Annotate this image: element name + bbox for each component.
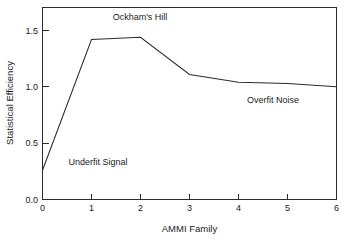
y-axis-title: Statistical Efficiency [4,61,15,145]
x-tick-label-6: 6 [334,203,339,213]
y-tick-label-2: 1.0 [25,82,38,92]
x-tick-label-2: 2 [138,203,143,213]
x-axis-tick-labels: 0 1 2 3 4 5 6 [40,203,339,213]
x-axis-ticks [43,194,337,200]
y-axis-ticks [43,31,49,200]
y-tick-label-1: 0.5 [25,138,38,148]
annotation-ockhams-hill: Ockham's Hill [113,12,168,22]
line-chart: 0.0 0.5 1.0 1.5 0 1 2 3 4 5 6 AMMI Famil… [0,0,346,248]
y-tick-label-3: 1.5 [25,26,38,36]
x-tick-label-1: 1 [89,203,94,213]
x-tick-label-5: 5 [285,203,290,213]
annotation-underfit-signal: Underfit Signal [68,157,127,167]
x-tick-label-3: 3 [187,203,192,213]
chart-figure: 0.0 0.5 1.0 1.5 0 1 2 3 4 5 6 AMMI Famil… [0,0,346,248]
x-tick-label-4: 4 [236,203,241,213]
x-tick-label-0: 0 [40,203,45,213]
x-axis-title: AMMI Family [162,223,218,234]
y-tick-label-0: 0.0 [25,195,38,205]
y-axis-tick-labels: 0.0 0.5 1.0 1.5 [25,26,38,205]
annotation-overfit-noise: Overfit Noise [247,95,299,105]
